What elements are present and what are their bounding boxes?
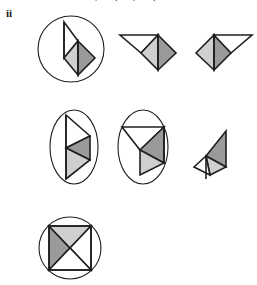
figure-4-ellipse-with-triangles (40, 103, 110, 191)
figure-3-left-triangle (196, 35, 214, 70)
figure-2-triangles (116, 27, 184, 77)
figure-2-right-triangle (158, 35, 176, 70)
figure-6-small-triangles (186, 122, 244, 184)
clipped-header-text: g t g t (0, 0, 257, 1)
figure-5-ellipse-with-triangles (107, 103, 179, 191)
item-label-ii: ii (6, 8, 12, 19)
figure-3-triangles (192, 27, 257, 77)
figure-1-circle-with-triangles (33, 10, 109, 88)
figure-7-circle-with-square-x (32, 212, 108, 284)
figure-1-lower-right-triangle (78, 41, 95, 75)
worksheet-page: g t g t ii (0, 0, 257, 285)
